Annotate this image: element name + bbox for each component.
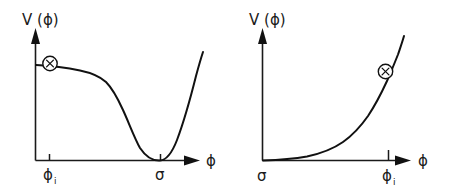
x-tick-label-phi-i-subscript-left: i xyxy=(54,176,57,186)
initial-field-marker-right xyxy=(378,64,392,78)
x-tick-label-phi-i-right: ϕ xyxy=(382,167,392,185)
y-axis-label-left: V (ϕ) xyxy=(22,11,59,29)
x-axis-label-left: ϕ xyxy=(206,152,216,170)
y-axis-arrowhead-right xyxy=(258,28,267,44)
panel-left-false-vacuum-potential: V (ϕ) ϕ ϕ i σ xyxy=(0,0,227,195)
y-axis-arrowhead-left xyxy=(31,28,40,44)
x-tick-label-sigma-right: σ xyxy=(257,167,267,185)
potential-curve-right xyxy=(263,36,404,161)
x-tick-label-sigma-left: σ xyxy=(155,166,165,184)
initial-field-marker-left xyxy=(43,56,57,70)
x-axis-arrowhead-right xyxy=(395,156,411,166)
x-tick-label-phi-i-left: ϕ xyxy=(43,166,53,184)
x-tick-label-phi-i-subscript-right: i xyxy=(393,177,396,187)
potential-curve-left xyxy=(36,52,203,161)
panel-right-rising-potential: V (ϕ) ϕ σ ϕ i xyxy=(227,0,454,195)
figure-root: V (ϕ) ϕ ϕ i σ V (ϕ) xyxy=(0,0,454,195)
y-axis-label-right: V (ϕ) xyxy=(249,11,286,29)
x-axis-arrowhead-left xyxy=(184,156,200,166)
x-axis-label-right: ϕ xyxy=(418,152,428,170)
